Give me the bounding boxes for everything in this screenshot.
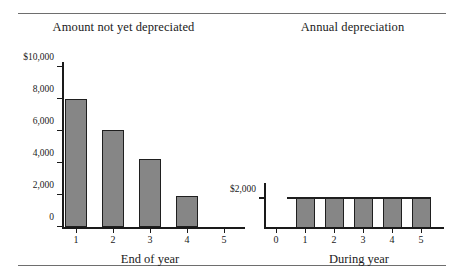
left-ytick-label-4000: 4,000 — [33, 148, 54, 158]
left-xtick-1 — [76, 229, 77, 233]
right-chart-panel: Annual depreciation $2,000 — [222, 20, 467, 260]
right-block-top-line — [287, 197, 431, 198]
right-bar-year-3 — [354, 197, 373, 228]
left-xtick-2 — [113, 229, 114, 233]
left-xtick-label-3: 3 — [148, 234, 153, 245]
left-bar-year-2 — [102, 130, 124, 227]
right-xtick-3 — [363, 229, 364, 233]
left-bar-year-4 — [176, 196, 198, 228]
right-bar-year-4 — [383, 197, 402, 228]
left-ytick-label-10000: $10,000 — [23, 52, 54, 62]
right-xtick-label-0: 0 — [274, 234, 279, 245]
right-xtick-0 — [276, 229, 277, 233]
left-xtick-label-2: 2 — [111, 234, 116, 245]
right-bar-year-1 — [296, 197, 315, 228]
depreciation-figure: Amount not yet depreciated 0 2,000 4,000… — [0, 0, 467, 277]
right-x-axis — [264, 227, 444, 229]
left-ytick-8000 — [57, 98, 62, 99]
left-ytick-2000 — [57, 194, 62, 195]
right-ytick-2000 — [259, 197, 264, 198]
right-plot-area: $2,000 0 1 2 3 4 — [264, 183, 444, 229]
left-y-axis — [62, 62, 64, 229]
left-plot-area: 0 2,000 4,000 6,000 8,000 $10,000 1 2 3 … — [62, 62, 245, 229]
right-ytick-label-2000: $2,000 — [230, 184, 256, 194]
right-xtick-1 — [305, 229, 306, 233]
right-xtick-label-1: 1 — [303, 234, 308, 245]
left-x-axis — [62, 227, 245, 229]
left-ytick-label-8000: 8,000 — [33, 84, 54, 94]
left-xtick-3 — [150, 229, 151, 233]
left-bar-year-3 — [139, 159, 161, 227]
left-ytick-label-6000: 6,000 — [33, 116, 54, 126]
top-divider-rule — [18, 13, 446, 14]
right-xtick-label-3: 3 — [361, 234, 366, 245]
right-xtick-2 — [334, 229, 335, 233]
right-bar-year-2 — [325, 197, 344, 228]
right-y-axis — [264, 183, 266, 229]
left-ytick-0 — [57, 226, 62, 227]
right-xtick-4 — [392, 229, 393, 233]
left-xtick-4 — [187, 229, 188, 233]
right-xtick-label-4: 4 — [390, 234, 395, 245]
right-xtick-5 — [421, 229, 422, 233]
right-x-axis-label: During year — [329, 252, 389, 267]
left-bar-year-1 — [65, 99, 87, 228]
left-chart-panel: Amount not yet depreciated 0 2,000 4,000… — [0, 20, 255, 260]
left-ytick-10000 — [57, 66, 62, 67]
left-chart-title: Amount not yet depreciated — [0, 20, 251, 35]
left-ytick-label-0: 0 — [49, 212, 54, 222]
left-ytick-4000 — [57, 162, 62, 163]
left-x-axis-label: End of year — [121, 252, 179, 267]
right-bar-year-5 — [412, 197, 431, 228]
left-xtick-label-1: 1 — [74, 234, 79, 245]
right-xtick-label-2: 2 — [332, 234, 337, 245]
right-chart-title: Annual depreciation — [230, 20, 467, 35]
left-ytick-label-2000: 2,000 — [33, 180, 54, 190]
left-ytick-6000 — [57, 130, 62, 131]
left-xtick-label-4: 4 — [185, 234, 190, 245]
right-xtick-label-5: 5 — [419, 234, 424, 245]
